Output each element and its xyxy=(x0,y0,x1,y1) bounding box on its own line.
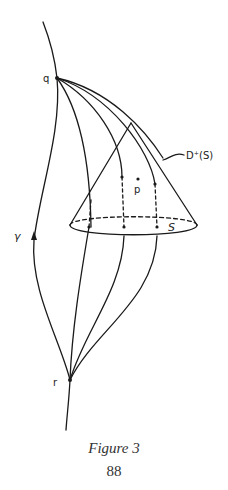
point-curve3-end xyxy=(153,182,156,185)
figure-caption: Figure 3 xyxy=(0,440,228,457)
point-r xyxy=(68,378,72,382)
curve-s2-to-r xyxy=(70,236,124,380)
domain-label-pointer xyxy=(163,154,184,160)
curve-q-to-s3 xyxy=(57,78,155,184)
point-p xyxy=(136,177,139,180)
label-r: r xyxy=(53,377,58,388)
label-surface-s: S xyxy=(168,221,175,234)
label-p: p xyxy=(134,184,140,195)
point-q xyxy=(55,76,59,80)
point-curve2-end xyxy=(120,175,123,178)
label-gamma: γ xyxy=(14,230,21,243)
label-q: q xyxy=(43,73,49,84)
label-domain: D⁺(S) xyxy=(186,150,213,161)
gamma-arrow-icon xyxy=(31,231,37,240)
page-number: 88 xyxy=(0,463,228,480)
cone-right-edge xyxy=(131,123,197,225)
spacetime-diagram: q r p γ S D⁺(S) xyxy=(0,0,228,490)
curve-s3-to-r xyxy=(70,236,157,380)
dashed-line-3 xyxy=(155,184,157,227)
point-s3 xyxy=(155,225,158,228)
point-s1 xyxy=(87,225,90,228)
curve-s1-to-r xyxy=(70,227,89,380)
curve-q-to-edge xyxy=(57,78,163,158)
point-s2 xyxy=(122,225,125,228)
dashed-line-2 xyxy=(122,177,124,227)
